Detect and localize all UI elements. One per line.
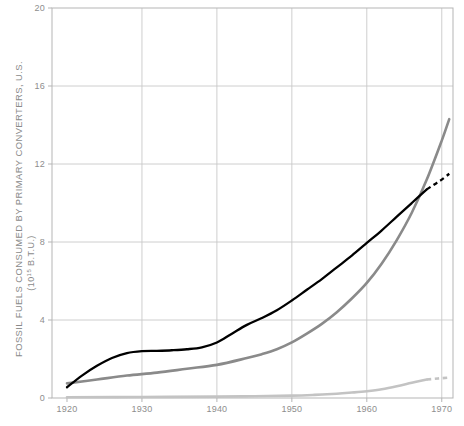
y-tick-label-8: 8 — [40, 237, 45, 247]
x-tick-label-1930: 1930 — [132, 404, 153, 414]
x-axis-tick-labels: 192019301940195019601970 — [57, 404, 453, 414]
y-axis-label-units: (1015 B.T.U.) — [26, 235, 36, 291]
y-tick-label-16: 16 — [35, 81, 45, 91]
x-axis-ticks — [67, 398, 442, 402]
y-tick-label-0: 0 — [40, 393, 45, 403]
y-tick-label-12: 12 — [35, 159, 45, 169]
plot-background — [52, 8, 453, 398]
x-tick-label-1960: 1960 — [356, 404, 377, 414]
chart-container: 048121620 192019301940195019601970 FOSSI… — [0, 0, 464, 426]
y-axis-label: FOSSIL FUELS CONSUMED BY PRIMARY CONVERT… — [13, 61, 36, 357]
y-axis-tick-labels: 048121620 — [35, 3, 45, 403]
x-tick-label-1950: 1950 — [281, 404, 302, 414]
x-tick-label-1940: 1940 — [206, 404, 227, 414]
y-tick-label-4: 4 — [40, 315, 45, 325]
x-tick-label-1920: 1920 — [57, 404, 78, 414]
x-tick-label-1970: 1970 — [431, 404, 452, 414]
y-axis-label-main: FOSSIL FUELS CONSUMED BY PRIMARY CONVERT… — [13, 61, 24, 357]
fossil-fuels-line-chart: 048121620 192019301940195019601970 FOSSI… — [0, 0, 464, 426]
y-tick-label-20: 20 — [35, 3, 45, 13]
y-axis-ticks — [48, 8, 52, 398]
